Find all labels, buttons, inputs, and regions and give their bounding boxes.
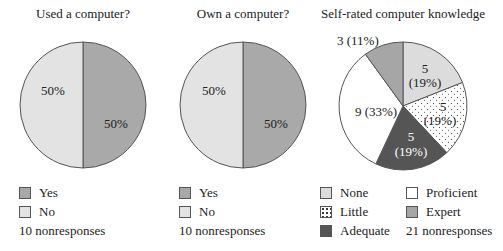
legend-item-no: No [19, 202, 105, 221]
legend-label: No [199, 202, 215, 221]
legend-item-yes: Yes [19, 183, 105, 202]
swatch-yes [179, 187, 191, 199]
slice-no [20, 42, 83, 168]
legend-label: Expert [426, 202, 461, 221]
swatch-no [19, 206, 31, 218]
label-no: 50% [202, 83, 226, 98]
pie-knowledge: 5 (19%) 5 (19%) 5 (19%) 9 (33%) 3 (11%) [337, 33, 467, 170]
swatch-adequate [320, 225, 332, 237]
legend-item-yes: Yes [179, 183, 265, 202]
legend-label: Adequate [340, 221, 390, 240]
label-none-pct: (19%) [409, 75, 442, 90]
label-none-count: 5 [422, 61, 429, 76]
swatch-little [320, 206, 332, 218]
pie-own-computer: 50% 50% [180, 42, 306, 168]
pie-used-computer: 50% 50% [20, 42, 146, 168]
legend-label: No [39, 202, 55, 221]
label-no: 50% [41, 83, 65, 98]
swatch-none [320, 187, 332, 199]
label-little-pct: (19%) [424, 113, 457, 128]
legend-item-adequate: Adequate [320, 221, 390, 240]
legend-label: Proficient [426, 183, 477, 202]
label-expert: 3 (11%) [337, 33, 379, 48]
legend-item-no: No [179, 202, 265, 221]
label-proficient: 9 (33%) [355, 104, 397, 119]
legend-label: None [340, 183, 368, 202]
nonresponses-note: 10 nonresponses [19, 221, 105, 240]
legend-label: Yes [39, 183, 58, 202]
swatch-yes [19, 187, 31, 199]
legend-item-proficient: Proficient [406, 183, 492, 202]
legend-own-computer: Yes No 10 nonresponses [179, 183, 265, 240]
swatch-proficient [406, 187, 418, 199]
slice-no [180, 42, 243, 168]
label-yes: 50% [264, 116, 288, 131]
legend-knowledge-col2: Proficient Expert 21 nonresponses [406, 183, 492, 240]
legend-item-little: Little [320, 202, 390, 221]
swatch-expert [406, 206, 418, 218]
label-little-count: 5 [440, 99, 447, 114]
legend-knowledge-col1: None Little Adequate [320, 183, 390, 240]
label-adequate-pct: (19%) [395, 144, 428, 159]
slice-yes [243, 42, 306, 168]
slice-yes [83, 42, 146, 168]
nonresponses-note: 21 nonresponses [406, 221, 492, 240]
label-adequate-count: 5 [408, 129, 415, 144]
legend-label: Little [340, 202, 368, 221]
legend-used-computer: Yes No 10 nonresponses [19, 183, 105, 240]
legend-item-none: None [320, 183, 390, 202]
swatch-no [179, 206, 191, 218]
legend-item-expert: Expert [406, 202, 492, 221]
legend-label: Yes [199, 183, 218, 202]
nonresponses-note: 10 nonresponses [179, 221, 265, 240]
label-yes: 50% [104, 116, 128, 131]
